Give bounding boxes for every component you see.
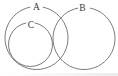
label-b: B: [79, 3, 85, 13]
label-a: A: [33, 2, 40, 12]
venn-diagram-figure: A B C: [0, 0, 118, 76]
label-c: C: [28, 20, 34, 30]
diagram-canvas: A B C: [0, 0, 118, 76]
circle-b-arc: [53, 8, 115, 69]
